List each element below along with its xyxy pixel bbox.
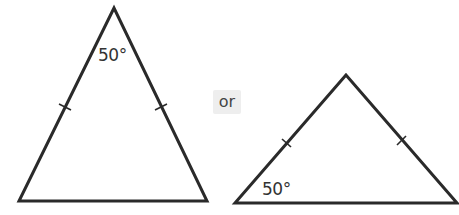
left-triangle-apex-angle-label: 50°: [98, 47, 127, 64]
or-text: or: [219, 94, 235, 110]
or-separator: or: [213, 90, 241, 114]
left-isosceles-triangle: [19, 8, 207, 201]
right-triangle-base-angle-label: 50°: [262, 181, 291, 198]
